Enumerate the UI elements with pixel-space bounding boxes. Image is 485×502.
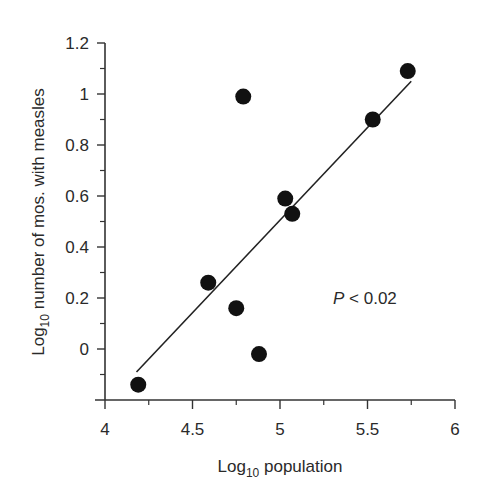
x-tick-label: 6: [450, 420, 459, 439]
data-point: [365, 112, 381, 128]
x-axis-label: Log10 population: [218, 457, 343, 480]
data-point: [277, 191, 293, 207]
y-tick-label: 0.4: [65, 238, 89, 257]
data-point: [400, 63, 416, 79]
data-point: [130, 377, 146, 393]
data-point: [251, 346, 267, 362]
x-tick-label: 5.5: [356, 420, 380, 439]
y-tick-label: 0.8: [65, 136, 89, 155]
data-point: [200, 275, 216, 291]
y-tick-label: 0: [80, 340, 89, 359]
annotations: P < 0.02: [333, 289, 397, 308]
data-point: [228, 300, 244, 316]
y-tick-label: 0.2: [65, 289, 89, 308]
axes: 1.210.80.60.40.2044.555.56: [65, 34, 459, 439]
y-tick-label: 1: [80, 85, 89, 104]
data-point: [235, 89, 251, 105]
y-tick-label: 0.6: [65, 187, 89, 206]
scatter-chart: 1.210.80.60.40.2044.555.56 P < 0.02 Log1…: [0, 0, 485, 502]
x-tick-label: 4: [100, 420, 109, 439]
x-tick-label: 5: [275, 420, 284, 439]
y-axis-label: Log10 number of mos. with measles: [29, 88, 52, 356]
y-tick-label: 1.2: [65, 34, 89, 53]
data-point: [284, 206, 300, 222]
p-value-annotation: P < 0.02: [333, 289, 397, 308]
x-tick-label: 4.5: [181, 420, 205, 439]
